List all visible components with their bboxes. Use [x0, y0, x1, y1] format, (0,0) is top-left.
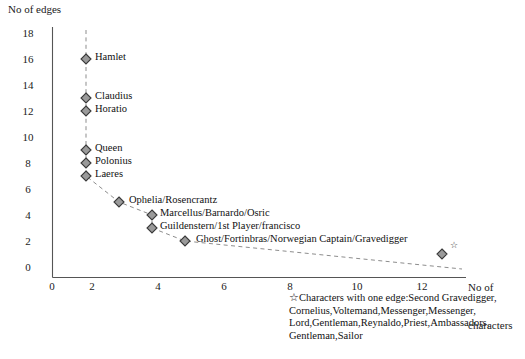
data-point-one-edge-characters: [437, 249, 447, 259]
y-tick-18: 18: [18, 27, 38, 39]
y-tick-0: 0: [18, 261, 38, 273]
legend-line-2: Cornelius,Voltemand,Messenger,Messenger,: [289, 305, 525, 318]
y-tick-12: 12: [18, 105, 38, 117]
point-label-claudius: Claudius: [95, 90, 132, 101]
data-point-laeres: [81, 171, 91, 181]
data-point-queen: [81, 145, 91, 155]
x-tick-6: 6: [214, 280, 234, 292]
legend-line-4: Gentleman,Sailor: [289, 330, 525, 343]
point-label-queen: Queen: [95, 142, 122, 153]
data-point-ghost-fortinbras-norwegian-captain-gravedigger: [180, 236, 190, 246]
x-tick-4: 4: [148, 280, 168, 292]
point-label-horatio: Horatio: [95, 103, 127, 114]
data-point-polonius: [81, 158, 91, 168]
y-tick-6: 6: [18, 183, 38, 195]
y-tick-8: 8: [18, 157, 38, 169]
data-point-ophelia-rosencrantz: [114, 197, 124, 207]
y-tick-14: 14: [18, 79, 38, 91]
legend-line-1: ☆Characters with one edge:Second Gravedi…: [289, 292, 525, 305]
point-label-polonius: Polonius: [95, 155, 132, 166]
point-label-hamlet: Hamlet: [95, 51, 126, 62]
y-tick-16: 16: [18, 53, 38, 65]
y-tick-10: 10: [18, 131, 38, 143]
point-label-ophelia-rosencrantz: Ophelia/Rosencrantz: [129, 194, 217, 205]
x-tick-10: 10: [347, 280, 367, 292]
data-point-horatio: [81, 106, 91, 116]
x-tick-2: 2: [82, 280, 102, 292]
x-tick-0: 0: [42, 280, 62, 292]
legend-line-3: Lord,Gentleman,Reynaldo,Priest,Ambassado…: [289, 317, 525, 330]
y-axis-title: No of edges: [8, 3, 61, 16]
legend: ☆Characters with one edge:Second Gravedi…: [289, 292, 525, 342]
data-point-guildenstern-1st-player-francisco: [147, 223, 157, 233]
point-label-marcellus-barnardo-osric: Marcellus/Barnardo/Osric: [160, 207, 270, 218]
star-icon: ☆: [450, 240, 458, 250]
data-point-claudius: [81, 93, 91, 103]
x-tick-12: 12: [412, 280, 432, 292]
data-point-hamlet: [81, 54, 91, 64]
y-tick-2: 2: [18, 235, 38, 247]
x-tick-8: 8: [280, 280, 300, 292]
data-point-marcellus-barnardo-osric: [147, 210, 157, 220]
point-label-ghost-fortinbras-norwegian-captain-gravedigger: Ghost/Fortinbras/Norwegian Captain/Grave…: [196, 233, 407, 244]
y-tick-4: 4: [18, 209, 38, 221]
point-label-guildenstern-1st-player-francisco: Guildenstern/1st Player/francisco: [160, 220, 300, 231]
point-label-laeres: Laeres: [95, 168, 123, 179]
